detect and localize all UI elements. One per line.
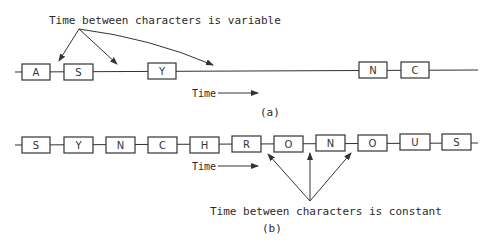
annotation-constant: Time between characters is constant: [210, 205, 442, 218]
char-label: U: [411, 137, 418, 148]
char-label: O: [285, 139, 293, 150]
time-label-b: Time: [192, 161, 216, 172]
char-box: Y: [64, 137, 93, 153]
char-box: S: [22, 137, 50, 153]
char-box: R: [232, 136, 261, 152]
char-label: S: [33, 140, 39, 151]
time-label-a: Time: [192, 88, 216, 99]
arrow-gap-1: [59, 29, 79, 61]
char-box: N: [359, 62, 387, 78]
caption-a: (a): [260, 106, 280, 119]
diagram-a: Time between characters is variable A S …: [15, 14, 478, 119]
char-label: Y: [74, 140, 82, 151]
caption-b: (b): [262, 222, 282, 235]
char-label: S: [75, 67, 81, 78]
char-label: H: [201, 140, 209, 151]
char-label: N: [369, 65, 376, 76]
char-box: S: [64, 64, 93, 80]
char-box: O: [358, 135, 387, 151]
char-label: N: [327, 138, 334, 149]
char-box: C: [148, 137, 177, 153]
char-box: S: [442, 134, 471, 150]
diagram-b: S Y N C H R O N: [15, 134, 478, 235]
char-box: Y: [148, 63, 176, 79]
char-box: A: [22, 64, 50, 80]
arrow-gap-3: [310, 153, 351, 201]
char-box: H: [190, 137, 219, 153]
char-box: O: [274, 136, 303, 152]
arrow-gap-1: [268, 154, 310, 201]
char-box: U: [400, 134, 430, 150]
char-label: C: [159, 140, 166, 151]
char-label: C: [412, 65, 419, 76]
char-label: O: [369, 138, 377, 149]
char-box: N: [316, 135, 345, 151]
char-label: A: [33, 67, 40, 78]
annotation-variable: Time between characters is variable: [49, 14, 281, 27]
char-label: S: [453, 137, 459, 148]
char-label: Y: [158, 66, 166, 77]
char-label: R: [243, 139, 250, 150]
async-vs-sync-diagram: Time between characters is variable A S …: [0, 0, 494, 249]
char-label: N: [117, 140, 124, 151]
char-box: N: [106, 137, 135, 153]
char-box: C: [401, 62, 429, 78]
